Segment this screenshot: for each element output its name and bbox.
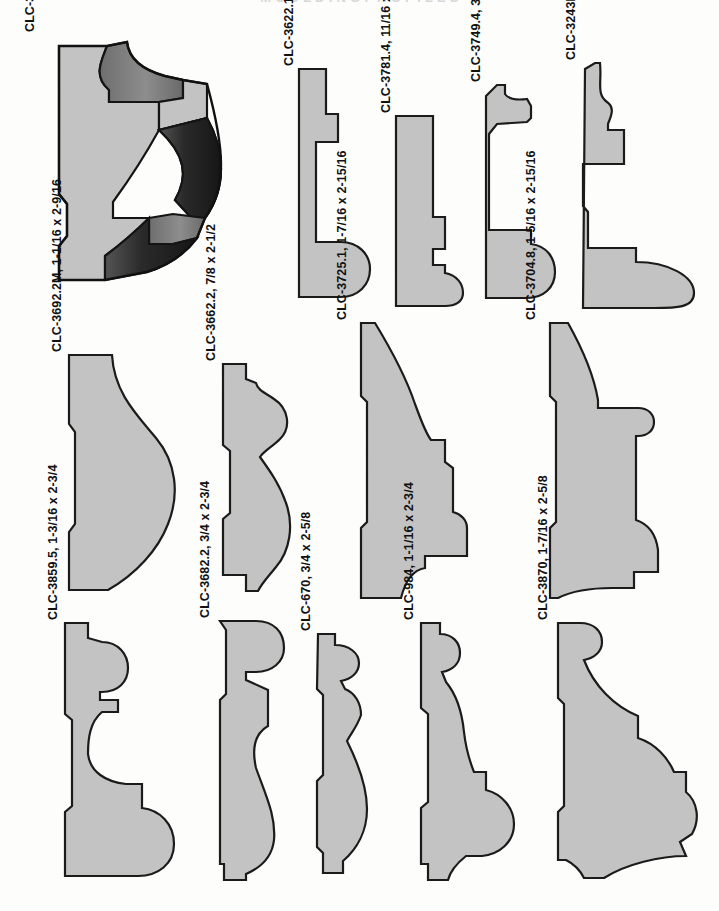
profile-clc-670[interactable]: CLC-670, 3/4 x 2-5/8 (313, 631, 397, 881)
profile-drawing-clc-3692-2m (64, 352, 190, 597)
profile-clc-3781-4[interactable]: CLC-3781.4, 11/16 x 2 F (393, 113, 467, 309)
profile-drawing-clc-670 (313, 631, 397, 881)
profile-drawing-clc-3870 (550, 620, 696, 886)
profile-clc-3682-2[interactable]: CLC-3682.2, 3/4 x 2-3/4 (212, 618, 312, 886)
profile-clc-3243m[interactable]: CLC-3243M, 1-1/8 x 2-5/8 (578, 60, 704, 312)
profile-drawing-clc-3859-5 (60, 620, 178, 885)
profile-clc-3870[interactable]: CLC-3870, 1-7/16 x 2-5/8 (550, 620, 696, 886)
profile-drawing-clc-3682-2 (212, 618, 312, 886)
profile-clc-984[interactable]: CLC-984, 1-1/16 x 2-3/4 (416, 620, 526, 886)
page-header-faint: M O U L D I N G P R O F I L E S (0, 0, 719, 14)
profile-drawing-clc-3704-8 (538, 320, 666, 605)
profile-clc-3692-2m[interactable]: CLC-3692.2M, 1-1/16 x 2-9/16 (64, 352, 190, 597)
profile-drawing-clc-984 (416, 620, 526, 886)
profile-drawing-clc-3781-4 (393, 113, 467, 309)
profile-clc-3704-8[interactable]: CLC-3704.8, 1-5/16 x 2-15/16 (538, 320, 666, 605)
catalog-page: M O U L D I N G P R O F I L E S (0, 0, 719, 911)
profile-clc-3859-5[interactable]: CLC-3859.5, 1-3/16 x 2-3/4 (60, 620, 178, 885)
profile-drawing-clc-3243m (578, 60, 704, 312)
